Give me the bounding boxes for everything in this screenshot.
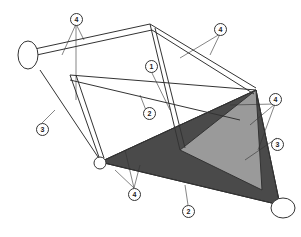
callout-1: 1 (145, 60, 158, 73)
callout-2-center: 2 (143, 107, 156, 120)
callout-4-bottom: 4 (128, 188, 141, 201)
callout-4-right: 4 (269, 93, 282, 106)
right-end-fitting (271, 198, 295, 218)
callout-3-left: 3 (36, 123, 49, 136)
bottom-left-fitting (94, 157, 106, 169)
frame-diagram: 4 4 1 2 3 4 3 4 2 (0, 0, 301, 237)
left-end-fitting (18, 41, 38, 69)
callout-4-top-left: 4 (70, 13, 83, 26)
callout-2-bottom: 2 (182, 205, 195, 218)
callout-3-right: 3 (271, 138, 284, 151)
callout-4-top-right: 4 (214, 23, 227, 36)
